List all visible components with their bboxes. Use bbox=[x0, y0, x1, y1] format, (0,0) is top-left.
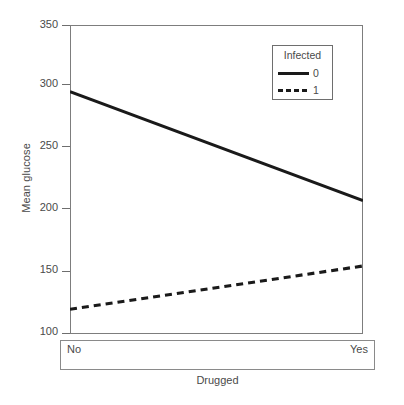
legend-solid-line-icon bbox=[277, 68, 310, 78]
x-axis-panel: No Yes bbox=[60, 340, 375, 370]
legend-dashed-line-icon bbox=[277, 85, 310, 95]
y-tick-label-150-wrap: 150 bbox=[26, 264, 58, 276]
x-category-label-no: No bbox=[67, 343, 81, 356]
series-line-0 bbox=[70, 92, 363, 201]
y-tick-label-250: 250 bbox=[28, 140, 58, 151]
y-tick-label-100: 100 bbox=[28, 326, 58, 337]
series-line-1 bbox=[70, 266, 363, 309]
y-tick-label-300: 300 bbox=[28, 78, 58, 89]
x-axis-title: Drugged bbox=[60, 374, 375, 386]
y-tick-label-350-wrap: 350 bbox=[26, 19, 58, 31]
y-axis-title: Mean glucose bbox=[16, 8, 36, 348]
legend-item-0-label: 0 bbox=[313, 67, 319, 79]
y-tick-label-300-wrap: 300 bbox=[26, 78, 58, 90]
legend: Infected 0 1 bbox=[272, 45, 333, 100]
legend-title: Infected bbox=[273, 49, 332, 61]
line-chart: Mean glucose 350 300 250 200 150 100 Inf… bbox=[0, 0, 404, 405]
legend-item-1: 1 bbox=[277, 82, 330, 98]
x-category-label-yes: Yes bbox=[350, 343, 368, 356]
y-tick-label-350: 350 bbox=[28, 19, 58, 30]
y-tick-label-150: 150 bbox=[28, 264, 58, 275]
y-tick-label-250-wrap: 250 bbox=[26, 140, 58, 152]
legend-item-0: 0 bbox=[277, 65, 330, 81]
y-tick-label-100-wrap: 100 bbox=[26, 326, 58, 338]
y-tick-label-200-wrap: 200 bbox=[26, 202, 58, 214]
y-tick-label-200: 200 bbox=[28, 202, 58, 213]
legend-item-1-label: 1 bbox=[313, 84, 319, 96]
